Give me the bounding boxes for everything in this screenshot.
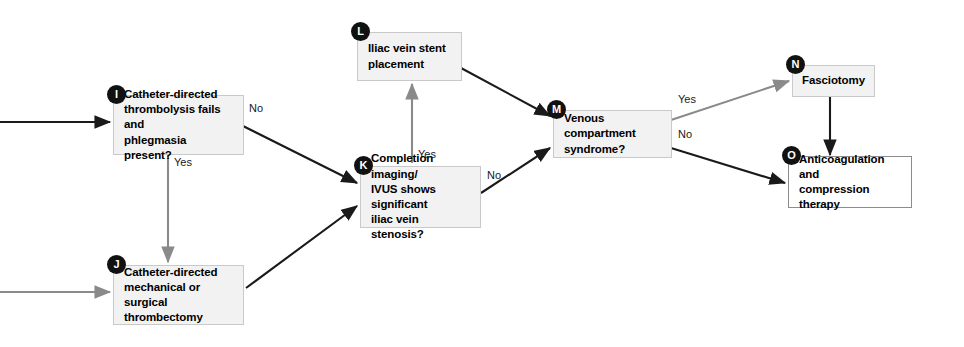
edge-label-K-yes: Yes — [418, 148, 436, 160]
node-badge-O: O — [782, 146, 801, 165]
node-badge-I: I — [107, 85, 126, 104]
node-badge-J: J — [107, 255, 126, 274]
node-I-label: Catheter-directed thrombolysis fails and… — [114, 87, 243, 163]
flowchart-canvas: I Catheter-directed thrombolysis fails a… — [0, 0, 964, 347]
node-J-label: Catheter-directed mechanical or surgical… — [114, 265, 243, 326]
edge-label-M-no: No — [678, 128, 692, 140]
node-K-label: Completion imaging/ IVUS shows significa… — [361, 151, 480, 242]
node-N-label: Fasciotomy — [793, 73, 874, 88]
edge-J-to-K — [246, 206, 357, 288]
node-M-label: Venous compartment syndrome? — [554, 111, 671, 157]
node-L[interactable]: L Iliac vein stent placement — [357, 32, 462, 81]
node-O-label: Anticoagulation and compression therapy — [789, 152, 911, 213]
edge-label-M-yes: Yes — [678, 93, 696, 105]
node-badge-K: K — [354, 156, 373, 175]
node-N[interactable]: N Fasciotomy — [792, 65, 875, 97]
node-badge-N: N — [786, 55, 805, 74]
node-L-label: Iliac vein stent placement — [358, 41, 454, 71]
edge-label-I-no: No — [249, 102, 263, 114]
edge-I-to-K — [243, 126, 357, 183]
node-badge-M: M — [547, 100, 566, 119]
edge-label-K-no: No — [487, 169, 501, 181]
node-K[interactable]: K Completion imaging/ IVUS shows signifi… — [360, 166, 481, 228]
edge-label-I-yes: Yes — [174, 156, 192, 168]
node-O[interactable]: O Anticoagulation and compression therap… — [788, 156, 912, 208]
node-badge-L: L — [351, 22, 370, 41]
node-J[interactable]: J Catheter-directed mechanical or surgic… — [113, 265, 244, 325]
edge-L-to-M — [461, 68, 550, 116]
edge-M-to-O — [671, 148, 785, 183]
node-I[interactable]: I Catheter-directed thrombolysis fails a… — [113, 95, 244, 155]
node-M[interactable]: M Venous compartment syndrome? — [553, 110, 672, 158]
